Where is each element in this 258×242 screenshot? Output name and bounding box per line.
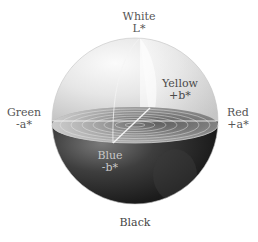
label-minus-a-star: -a* [2,119,46,131]
label-blue: Blue -b* [88,150,132,174]
label-black: Black [110,217,160,229]
label-white: White L* [114,11,164,35]
label-black-name: Black [110,217,160,229]
label-minus-b-star: -b* [88,162,132,174]
label-l-star: L* [114,23,164,35]
label-yellow: Yellow +b* [150,78,210,102]
label-green: Green -a* [2,107,46,131]
label-plus-b-star: +b* [150,90,210,102]
equator-disc [52,107,218,143]
label-red: Red +a* [218,107,258,131]
label-plus-a-star: +a* [218,119,258,131]
